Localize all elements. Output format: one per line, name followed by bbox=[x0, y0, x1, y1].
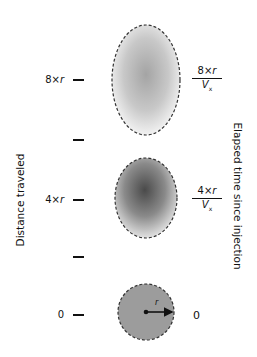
plume-4r bbox=[115, 158, 177, 238]
tick-label-4r: 4×r bbox=[24, 194, 64, 206]
diffusion-diagram bbox=[0, 0, 257, 357]
plume-8r bbox=[112, 25, 180, 135]
time-label-4r: 4×r Vx bbox=[192, 185, 222, 215]
tick-8r bbox=[73, 79, 84, 81]
time-label-0: 0 bbox=[193, 309, 200, 322]
tick-0 bbox=[73, 314, 84, 316]
tick-label-8r: 8×r bbox=[24, 74, 64, 86]
tick-2r bbox=[73, 256, 84, 258]
tick-6r bbox=[73, 139, 84, 141]
axis-title-elapsed-time: Elapsed time since injection bbox=[232, 122, 244, 269]
axis-title-distance: Distance traveled bbox=[14, 154, 26, 247]
tick-label-0: 0 bbox=[24, 309, 64, 321]
tick-4r bbox=[73, 199, 84, 201]
time-label-8r: 8×r Vx bbox=[192, 65, 222, 95]
radius-label: r bbox=[155, 298, 158, 307]
